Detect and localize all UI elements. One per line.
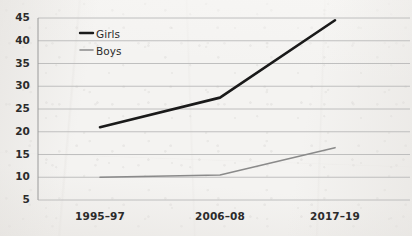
x-tick-label: 2017–19 bbox=[290, 210, 380, 222]
x-tick-label: 1995–97 bbox=[55, 210, 145, 222]
y-tick-label: 25 bbox=[4, 102, 30, 114]
legend-label-girls: Girls bbox=[96, 28, 120, 40]
y-tick-label: 40 bbox=[4, 34, 30, 46]
legend-marker-group bbox=[80, 33, 93, 50]
series-line-boys bbox=[100, 148, 335, 178]
x-tick-label: 2006–08 bbox=[175, 210, 265, 222]
y-tick-label: 35 bbox=[4, 57, 30, 69]
chart-plot-area bbox=[0, 0, 412, 236]
y-tick-label: 10 bbox=[4, 170, 30, 182]
y-tick-label: 30 bbox=[4, 79, 30, 91]
y-tick-label: 15 bbox=[4, 148, 30, 160]
series-lines-group bbox=[100, 20, 335, 177]
y-tick-label: 5 bbox=[4, 193, 30, 205]
line-chart: 45403530252015105 1995–972006–082017–19 … bbox=[0, 0, 412, 236]
y-tick-label: 45 bbox=[4, 11, 30, 23]
chart-page: 45403530252015105 1995–972006–082017–19 … bbox=[0, 0, 412, 236]
series-line-girls bbox=[100, 20, 335, 127]
gridlines-group bbox=[38, 18, 410, 200]
legend-label-boys: Boys bbox=[96, 45, 122, 57]
y-tick-label: 20 bbox=[4, 125, 30, 137]
